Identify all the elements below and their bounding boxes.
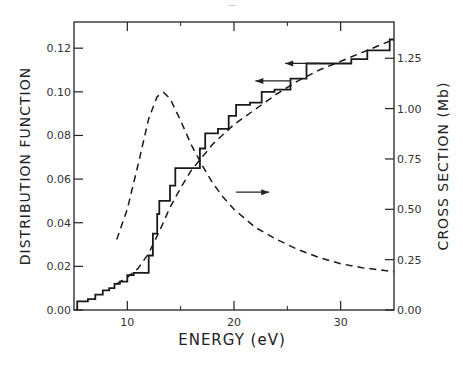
y-tick-label: 0.08 — [47, 129, 72, 142]
y-tick-label: 0.12 — [47, 42, 72, 55]
histogram-line — [77, 40, 394, 311]
y-tick-label: 0.06 — [47, 173, 72, 186]
y-axis-left: 0.000.020.040.060.080.100.12 — [47, 42, 84, 317]
arrow-right-icon — [261, 189, 269, 195]
x-tick-label: 10 — [120, 316, 134, 329]
axis-arrows — [236, 60, 319, 195]
y2-tick-label: 0.25 — [397, 254, 422, 267]
x-tick-label: 20 — [227, 316, 241, 329]
y-tick-label: 0.02 — [47, 260, 72, 273]
y2-tick-label: 1.00 — [397, 103, 422, 116]
x-axis: 102030 — [120, 22, 347, 329]
y2-tick-label: 1.25 — [397, 52, 422, 65]
x-axis-title: ENERGY (eV) — [178, 331, 286, 349]
plot-series — [77, 40, 394, 311]
y-tick-label: 0.04 — [47, 217, 72, 230]
y-axis-right: 0.000.250.500.751.001.25 — [385, 52, 422, 317]
dashed-curve — [117, 40, 394, 284]
x-tick-label: 30 — [334, 316, 348, 329]
arrow-left-icon — [285, 60, 293, 66]
page-marker: ... — [228, 0, 236, 8]
y2-tick-label: 0.50 — [397, 203, 422, 216]
chart: ... 102030 0.000.020.040.060.080.100.12 … — [0, 0, 463, 367]
y2-tick-label: 0.75 — [397, 153, 422, 166]
plot-frame — [74, 22, 394, 310]
y2-axis-title: CROSS SECTION (Mb) — [435, 82, 451, 251]
arrow-left-icon — [255, 78, 263, 84]
y-tick-label: 0.10 — [47, 86, 72, 99]
y2-tick-label: 0.00 — [397, 304, 422, 317]
dashed-curve — [117, 93, 394, 272]
y-tick-label: 0.00 — [47, 304, 72, 317]
y-axis-title: DISTRIBUTION FUNCTION — [17, 67, 33, 265]
